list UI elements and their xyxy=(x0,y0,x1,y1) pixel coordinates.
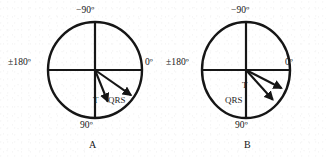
axis-label-0-b: 0º xyxy=(285,58,293,68)
axis-label-minus-90-a: −90º xyxy=(76,6,94,16)
axis-label-90-a: 90º xyxy=(80,121,93,131)
qrs-vector-arrow-b xyxy=(246,70,273,100)
diagram-panel-a: −90º ±180º 0º 90º T QRS A xyxy=(0,0,163,159)
t-vector-label-a: T xyxy=(93,96,99,105)
qrs-vector-label-b: QRS xyxy=(225,96,243,105)
t-vector-label-b: T xyxy=(242,81,248,90)
axis-label-90-b: 90º xyxy=(235,121,248,131)
axis-label-180-b: ±180º xyxy=(166,58,189,68)
axis-label-minus-90-b: −90º xyxy=(231,6,249,16)
axis-label-180-a: ±180º xyxy=(8,58,31,68)
panel-letter-b: B xyxy=(244,140,251,150)
qrs-vector-label-a: QRS xyxy=(108,96,126,105)
hexaxial-circle-a xyxy=(0,0,163,159)
diagram-panel-b: −90º ±180º 0º 90º T QRS B xyxy=(163,0,326,159)
panel-letter-a: A xyxy=(89,140,96,150)
t-vector-arrow-b xyxy=(246,70,282,88)
figure-root: −90º ±180º 0º 90º T QRS A −90º ±180º 0º … xyxy=(0,0,326,159)
axis-label-0-a: 0º xyxy=(145,58,153,68)
